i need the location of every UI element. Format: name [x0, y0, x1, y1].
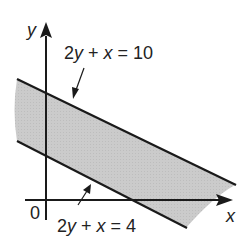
upper-label-pointer-arrowhead-icon — [72, 87, 79, 99]
inequality-diagram: y x 0 2y + x = 10 2y + x = 4 — [0, 0, 250, 247]
origin-label: 0 — [30, 203, 40, 223]
lower-label-pointer-arrowhead-icon — [83, 184, 91, 194]
lower-label-pointer — [78, 191, 87, 205]
y-axis-label: y — [25, 20, 37, 40]
upper-label-pointer — [76, 68, 84, 90]
upper-line-label: 2y + x = 10 — [64, 43, 153, 63]
y-axis-arrow-icon — [40, 22, 52, 38]
shaded-region — [15, 79, 236, 228]
lower-line-label: 2y + x = 4 — [57, 216, 136, 236]
x-axis-label: x — [225, 206, 236, 226]
